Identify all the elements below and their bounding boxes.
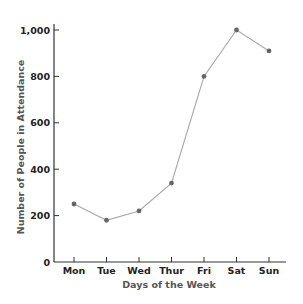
line-chart: 02004006008001,000 MonTueWedThurFriSatSu… xyxy=(0,0,303,304)
x-tick-label: Sun xyxy=(259,265,280,276)
x-tick-label: Thur xyxy=(159,265,184,276)
series-line xyxy=(74,30,269,220)
y-tick-label: 400 xyxy=(30,164,50,175)
data-point xyxy=(202,74,207,79)
x-axis-ticks: MonTueWedThurFriSatSun xyxy=(63,257,280,276)
y-tick-label: 800 xyxy=(30,71,50,82)
axes xyxy=(54,24,286,262)
data-point xyxy=(137,209,142,214)
x-tick-label: Mon xyxy=(63,265,86,276)
x-tick-label: Tue xyxy=(97,265,116,276)
data-point xyxy=(234,28,239,33)
data-point xyxy=(72,202,77,207)
x-tick-label: Sat xyxy=(228,265,246,276)
y-tick-label: 600 xyxy=(30,117,50,128)
data-point xyxy=(267,48,272,53)
y-axis-title: Number of People in Attendance xyxy=(15,60,26,235)
y-tick-label: 0 xyxy=(43,257,50,268)
y-tick-label: 200 xyxy=(30,210,50,221)
data-point xyxy=(104,218,109,223)
data-series xyxy=(72,28,272,223)
x-axis-title: Days of the Week xyxy=(122,279,216,290)
y-tick-label: 1,000 xyxy=(20,25,50,36)
data-point xyxy=(169,181,174,186)
x-tick-label: Wed xyxy=(127,265,150,276)
x-tick-label: Fri xyxy=(197,265,211,276)
